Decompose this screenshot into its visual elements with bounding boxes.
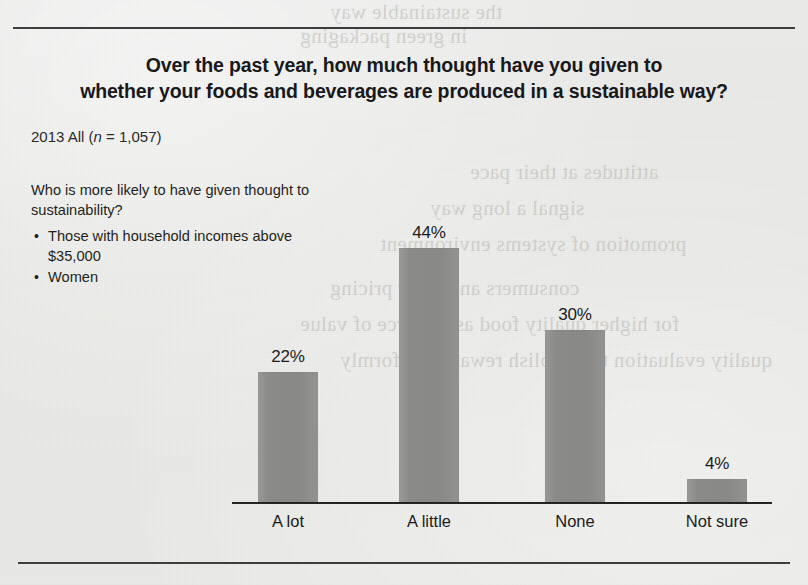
top-divider-rule	[13, 27, 795, 29]
chart-subtitle: 2013 All (n = 1,057)	[31, 128, 162, 145]
chart-title: Over the past year, how much thought hav…	[0, 52, 808, 104]
annotation-question: Who is more likely to have given thought…	[31, 180, 331, 220]
annotation-bullet-list: Those with household incomes above $35,0…	[31, 226, 331, 287]
annotation-bullet-item: Those with household incomes above $35,0…	[48, 226, 331, 266]
subtitle-n-symbol: n	[94, 128, 102, 145]
subtitle-suffix: = 1,057)	[102, 128, 162, 145]
annotation-bullet-item: Women	[48, 267, 331, 287]
chart-title-line-2: whether your foods and beverages are pro…	[0, 78, 808, 104]
annotation-callout: Who is more likely to have given thought…	[31, 180, 331, 288]
chart-title-line-1: Over the past year, how much thought hav…	[0, 52, 808, 78]
subtitle-prefix: 2013 All (	[31, 128, 94, 145]
bottom-divider-rule	[18, 562, 790, 564]
